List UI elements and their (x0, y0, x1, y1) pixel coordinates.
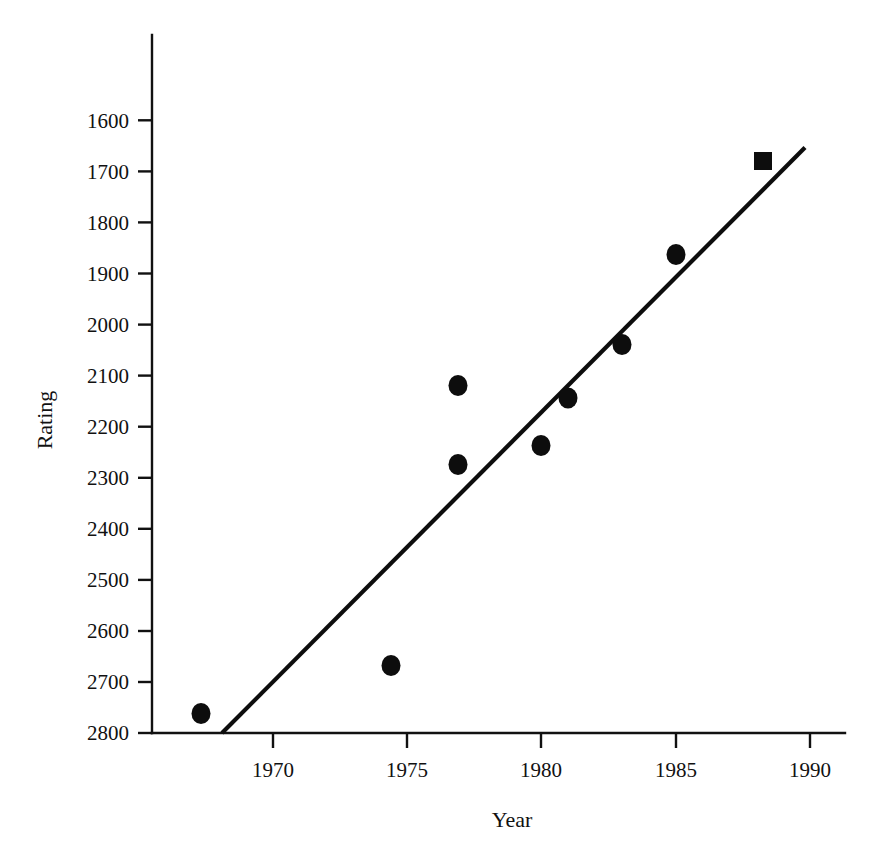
y-tick-label: 2400 (87, 517, 129, 541)
x-tick-marks (273, 733, 810, 748)
data-point (192, 703, 211, 724)
x-axis-title: Year (492, 807, 533, 832)
y-tick-label: 1600 (87, 109, 129, 133)
highlighted-data-point (754, 152, 772, 170)
scatter-plot: 2800 2700 2600 2500 2400 2300 2200 2100 … (0, 0, 872, 858)
x-tick-label: 1980 (520, 758, 562, 782)
trend-line (222, 148, 805, 734)
data-point (613, 334, 632, 355)
y-tick-label: 2700 (87, 670, 129, 694)
data-point (559, 388, 578, 409)
x-tick-label: 1970 (252, 758, 294, 782)
y-tick-label: 1700 (87, 160, 129, 184)
y-tick-label: 2500 (87, 568, 129, 592)
y-tick-label: 2800 (87, 721, 129, 745)
y-tick-label: 2200 (87, 415, 129, 439)
y-tick-label: 2000 (87, 313, 129, 337)
y-tick-label: 1800 (87, 211, 129, 235)
y-axis-title: Rating (32, 391, 57, 450)
y-tick-label: 2600 (87, 619, 129, 643)
data-point (532, 435, 551, 456)
x-tick-label: 1985 (655, 758, 697, 782)
x-tick-label: 1975 (386, 758, 428, 782)
data-point (667, 244, 686, 265)
y-tick-label: 2100 (87, 364, 129, 388)
y-tick-label: 1900 (87, 262, 129, 286)
x-tick-label: 1990 (789, 758, 831, 782)
chart-figure: 2800 2700 2600 2500 2400 2300 2200 2100 … (0, 0, 872, 858)
data-point (382, 655, 401, 676)
data-points (192, 152, 773, 724)
y-tick-marks (138, 120, 152, 733)
data-point (449, 454, 468, 475)
data-point (449, 375, 468, 396)
y-tick-label: 2300 (87, 466, 129, 490)
